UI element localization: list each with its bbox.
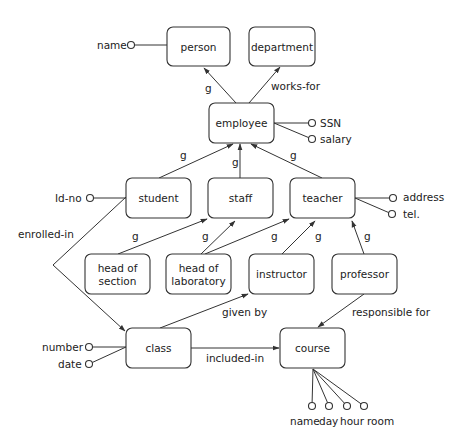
attribute-circle-icon	[389, 211, 396, 218]
entity-label: student	[138, 192, 178, 204]
attribute-group: nameSSNsalaryId-noaddresstel.numberdaten…	[42, 39, 444, 427]
attribute-circle-icon	[309, 120, 316, 127]
entity-staff[interactable]: staff	[208, 178, 273, 218]
entity-student[interactable]: student	[126, 178, 191, 218]
attribute-connector	[92, 347, 126, 363]
attribute-circle-icon	[86, 344, 93, 351]
entity-teacher[interactable]: teacher	[290, 178, 355, 218]
relationship-label: works-for	[271, 80, 321, 92]
entity-department[interactable]: department	[249, 27, 315, 66]
relationship-label: g	[205, 82, 212, 94]
attribute-connector	[313, 369, 345, 403]
entity-professor[interactable]: professor	[332, 254, 397, 294]
attribute-circle-icon	[86, 361, 93, 368]
relationship-label: g	[271, 230, 278, 242]
attribute-label-hour: hour	[340, 415, 365, 427]
entity-label: department	[251, 41, 313, 53]
attribute-label-tel: tel.	[403, 208, 420, 220]
attribute-circle-icon	[128, 42, 135, 49]
entity-label: instructor	[256, 268, 307, 280]
relationship-label: g	[315, 230, 322, 242]
entity-label: professor	[340, 268, 390, 280]
entity-employee[interactable]: employee	[209, 103, 274, 143]
relationship-arrow-g	[159, 144, 233, 178]
attribute-label-name: name	[97, 39, 127, 51]
attribute-label-room: room	[367, 415, 394, 427]
attribute-connector	[312, 369, 313, 403]
entity-label: person	[181, 41, 217, 53]
relationship-label: g	[232, 156, 239, 168]
attribute-connector	[274, 123, 309, 138]
attribute-label-number: number	[42, 341, 84, 353]
entity-label: staff	[229, 192, 253, 204]
relationship-arrow-g	[352, 221, 364, 254]
entity-course[interactable]: course	[280, 328, 345, 368]
er-diagram: nameSSNsalaryId-noaddresstel.numberdaten…	[0, 0, 458, 448]
attribute-label-date: date	[58, 358, 82, 370]
attribute-circle-icon	[326, 403, 333, 410]
attribute-label-ssn: SSN	[320, 117, 341, 129]
relationship-label: g	[290, 149, 297, 161]
attribute-label-idno: Id-no	[55, 192, 82, 204]
relationship-label: g	[180, 149, 187, 161]
entity-head-of-section[interactable]: head ofsection	[85, 254, 150, 294]
attribute-circle-icon	[344, 403, 351, 410]
attribute-connector	[355, 198, 389, 213]
entity-head-of-laboratory[interactable]: head oflaboratory	[166, 254, 231, 294]
relationship-label: included-in	[206, 352, 264, 364]
attribute-circle-icon	[309, 403, 316, 410]
attribute-label-name: name	[290, 415, 320, 427]
entity-label: teacher	[302, 192, 343, 204]
relationship-label: enrolled-in	[18, 228, 74, 240]
relationship-label: responsible for	[352, 306, 431, 318]
entity-label: course	[295, 342, 330, 354]
relationship-label: g	[202, 230, 209, 242]
attribute-label-day: day	[319, 415, 338, 427]
entity-instructor[interactable]: instructor	[249, 254, 314, 294]
entity-label: employee	[216, 117, 268, 129]
attribute-label-salary: salary	[320, 133, 352, 145]
attribute-circle-icon	[87, 195, 94, 202]
entity-person[interactable]: person	[167, 27, 230, 66]
entity-label: class	[145, 342, 171, 354]
entity-label: section	[99, 275, 137, 287]
attribute-circle-icon	[390, 195, 397, 202]
attribute-circle-icon	[309, 136, 316, 143]
entity-class[interactable]: class	[126, 328, 191, 368]
relationship-label: given by	[222, 306, 267, 318]
relationship-label: g	[364, 230, 371, 242]
entity-label: head of	[98, 262, 138, 274]
entity-label: head of	[179, 262, 219, 274]
attribute-label-address: address	[403, 191, 444, 203]
relationship-arrow-g	[282, 221, 315, 254]
attribute-circle-icon	[361, 403, 368, 410]
entity-label: laboratory	[171, 275, 225, 287]
relationship-arrow-g	[251, 144, 322, 178]
relationship-label: g	[132, 230, 139, 242]
